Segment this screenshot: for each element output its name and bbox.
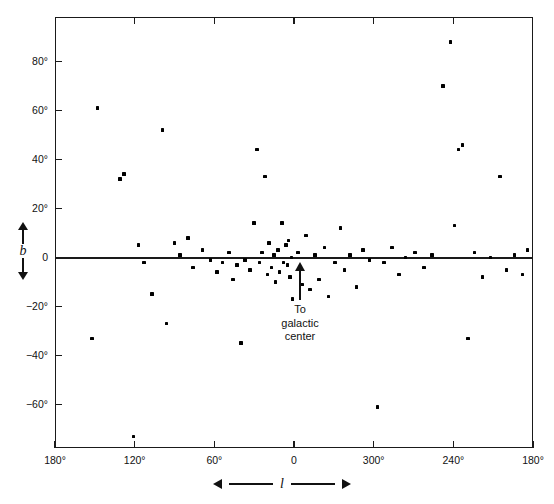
data-point xyxy=(221,261,225,265)
y-axis-tick xyxy=(55,61,62,62)
annotation-line-3: center xyxy=(240,330,360,344)
data-point xyxy=(339,226,343,230)
y-axis-tick xyxy=(55,306,62,307)
x-axis-tick xyxy=(293,441,294,448)
data-point xyxy=(466,337,470,341)
data-point xyxy=(404,256,408,260)
data-point xyxy=(267,241,271,245)
data-point xyxy=(288,275,292,279)
y-axis-tick xyxy=(55,404,62,405)
x-axis-label-group: l xyxy=(167,474,397,494)
data-point xyxy=(266,273,270,277)
x-axis-tick-top xyxy=(134,17,135,24)
data-point xyxy=(274,280,278,284)
y-axis-tick-label: 80° xyxy=(0,56,48,67)
y-axis-tick xyxy=(55,159,62,160)
data-point xyxy=(449,40,453,44)
data-point xyxy=(272,253,276,257)
y-axis-tick-label: 60° xyxy=(0,105,48,116)
data-point xyxy=(382,261,386,265)
data-point xyxy=(308,288,312,292)
data-point xyxy=(132,435,136,439)
galactic-center-arrow-icon xyxy=(294,262,306,300)
data-point xyxy=(191,266,195,270)
data-point xyxy=(461,143,465,147)
plot-frame xyxy=(55,17,533,448)
x-axis-tick-top xyxy=(453,17,454,24)
scatter-plot-figure: 80°60°40°20°0−20°−40°−60° 180°120°60°030… xyxy=(0,0,554,504)
data-point xyxy=(235,263,239,267)
y-axis-tick xyxy=(55,208,62,209)
data-point xyxy=(186,236,190,240)
y-axis-tick xyxy=(55,257,62,258)
arrow-right-icon xyxy=(342,479,351,489)
data-point xyxy=(304,234,308,238)
data-point xyxy=(142,261,146,265)
data-point xyxy=(215,270,219,274)
galactic-plane-baseline xyxy=(55,257,533,259)
data-point xyxy=(284,243,288,247)
data-point xyxy=(481,275,485,279)
x-axis-tick-label: 120° xyxy=(105,455,165,466)
x-axis-tick-label: 180° xyxy=(25,455,85,466)
x-axis-tick-top xyxy=(214,17,215,24)
y-axis-tick-label: 20° xyxy=(0,203,48,214)
x-axis-tick-top xyxy=(373,17,374,24)
arrow-up-icon xyxy=(18,222,28,230)
data-point xyxy=(96,106,100,110)
data-point xyxy=(348,253,352,257)
data-point xyxy=(201,248,205,252)
data-point xyxy=(290,256,294,260)
x-axis-tick xyxy=(373,441,374,448)
y-axis-tick-label: −40° xyxy=(0,350,48,361)
arrow-left-icon xyxy=(213,479,222,489)
data-point xyxy=(296,251,300,255)
x-axis-tick xyxy=(214,441,215,448)
x-axis-label: l xyxy=(280,476,284,492)
data-point xyxy=(430,253,434,257)
annotation-line-2: galactic xyxy=(240,317,360,331)
data-point xyxy=(161,128,165,132)
x-axis-tick xyxy=(453,441,454,448)
data-point xyxy=(282,261,286,265)
y-axis-tick-label: 40° xyxy=(0,154,48,165)
x-axis-tick xyxy=(532,441,533,448)
x-axis-tick-label: 60° xyxy=(184,455,244,466)
data-point xyxy=(313,253,317,257)
data-point xyxy=(441,84,445,88)
data-point xyxy=(376,405,380,409)
data-point xyxy=(489,256,493,260)
galactic-center-annotation: To galactic center xyxy=(240,303,360,344)
data-point xyxy=(137,243,141,247)
y-axis-tick-label: −60° xyxy=(0,399,48,410)
data-point xyxy=(343,268,347,272)
arrow-left-stem xyxy=(229,483,273,485)
x-axis-tick-label: 180° xyxy=(503,455,554,466)
data-point xyxy=(150,292,154,296)
data-point xyxy=(227,251,231,255)
data-point xyxy=(333,261,337,265)
data-point xyxy=(122,172,126,176)
data-point xyxy=(355,285,359,289)
x-axis-tick-label: 240° xyxy=(423,455,483,466)
data-point xyxy=(521,273,525,277)
data-point xyxy=(178,253,182,257)
data-point xyxy=(413,251,417,255)
x-axis-tick-label: 0 xyxy=(264,455,324,466)
y-axis-tick xyxy=(55,355,62,356)
arrow-down-stem xyxy=(22,258,24,272)
data-point xyxy=(498,175,502,179)
data-point xyxy=(255,148,259,152)
galactic-center-arrowhead xyxy=(295,262,305,271)
y-axis-label: b xyxy=(6,244,40,258)
data-point xyxy=(258,261,262,265)
data-point xyxy=(276,248,280,252)
data-point xyxy=(505,268,509,272)
data-point xyxy=(173,241,177,245)
data-point xyxy=(390,246,394,250)
x-axis-tick xyxy=(54,441,55,448)
y-axis-tick-label: −20° xyxy=(0,301,48,312)
x-axis-tick xyxy=(134,441,135,448)
data-point xyxy=(526,248,530,252)
x-axis-tick-label: 300° xyxy=(344,455,404,466)
